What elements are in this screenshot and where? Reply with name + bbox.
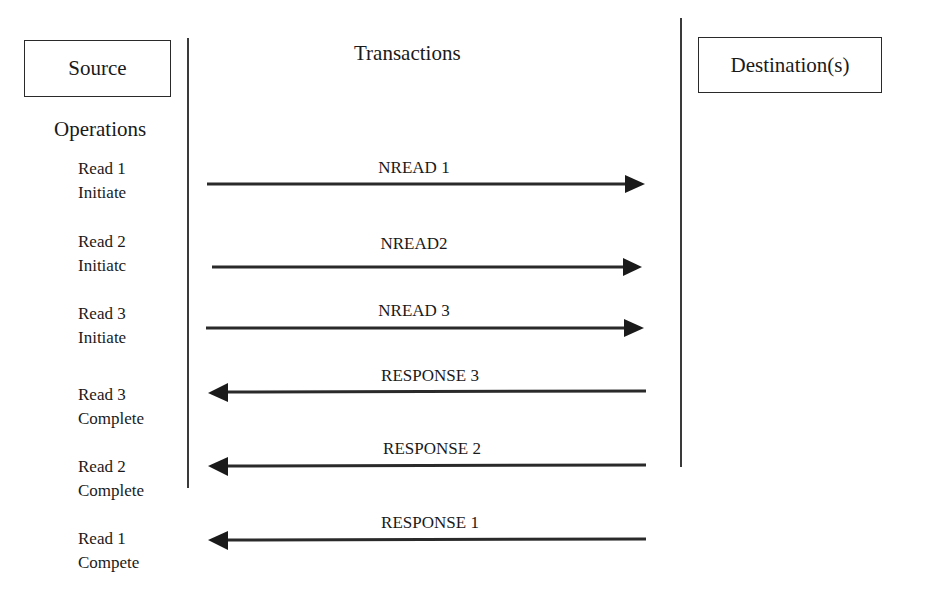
arrow-left-icon xyxy=(208,531,646,550)
arrow-left-icon xyxy=(208,457,646,476)
arrow-left-icon xyxy=(208,383,646,402)
arrow-right-icon xyxy=(206,319,644,337)
message-arrows xyxy=(0,0,929,592)
arrow-right-icon xyxy=(207,175,645,193)
arrow-right-icon xyxy=(212,258,642,276)
